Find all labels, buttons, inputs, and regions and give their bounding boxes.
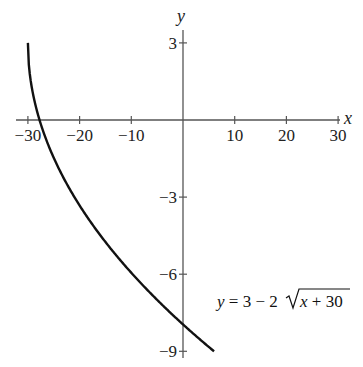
x-tick-label: 10 (226, 126, 243, 145)
y-tick-label: −3 (159, 188, 177, 207)
function-graph: −30−20−10102030 3−3−6−9 x y y = 3 − 2 x … (0, 0, 363, 367)
y-tick-label: 3 (169, 34, 178, 53)
equation-radicand-rest: + 30 (308, 292, 343, 311)
x-axis-label: x (343, 108, 352, 128)
svg-text:x + 30: x + 30 (299, 292, 343, 311)
equation-y: y (215, 292, 225, 311)
y-tick-label: −9 (159, 342, 177, 361)
svg-text:y = 3 − 2: y = 3 − 2 (215, 292, 278, 311)
x-tick-label: −30 (15, 126, 42, 145)
equation-annotation: y = 3 − 2 x + 30 (215, 289, 350, 311)
x-tick-label: −10 (118, 126, 145, 145)
y-tick-label: −6 (159, 265, 177, 284)
x-tick-label: −20 (66, 126, 93, 145)
equation-rest: = 3 − 2 (225, 292, 278, 311)
x-tick-label: 20 (278, 126, 295, 145)
y-axis-label: y (175, 6, 185, 26)
x-tick-label: 30 (330, 126, 347, 145)
